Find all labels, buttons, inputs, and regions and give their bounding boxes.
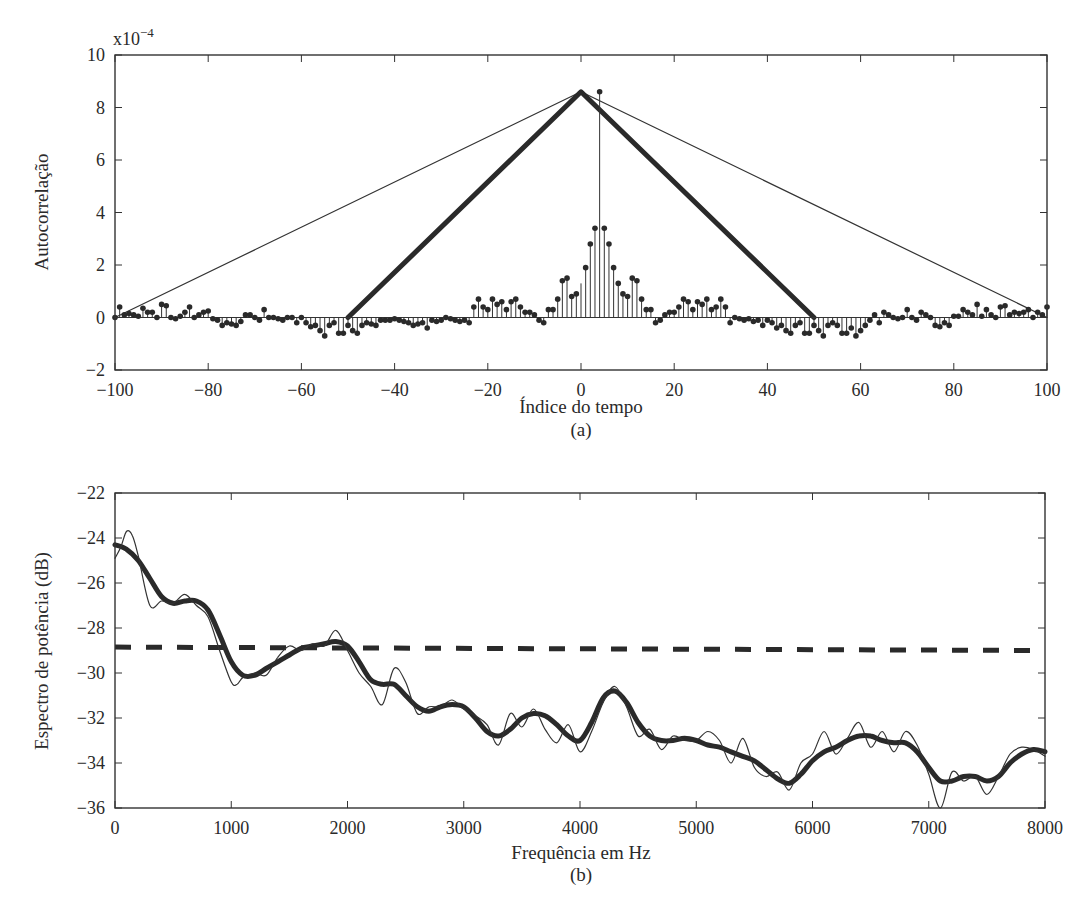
stem-marker [424,325,430,331]
x-tick-label: 80 [945,380,963,400]
stem-marker [485,307,491,313]
stem-marker [471,304,477,310]
stem-marker [816,328,822,334]
stem-marker [345,323,351,329]
y-tick-label: 4 [96,203,105,223]
x-tick-label: 1000 [213,818,249,838]
stem-marker [289,315,295,321]
stem-marker [355,330,361,336]
stem-marker [476,296,482,302]
stem-marker [755,317,761,323]
ticks-b: 010002000300040005000600070008000−36−34−… [77,483,1063,838]
stem-marker [904,307,910,313]
stem-marker [704,296,710,302]
panel-a-autocorrelation: x10−4 −100−80−60−40−20020406080100−20246… [31,25,1061,441]
stem-marker [583,265,589,271]
stem-marker [779,323,785,329]
caption-a: (a) [570,419,591,441]
stem-marker [1002,303,1008,309]
stem-marker [946,323,952,329]
stem-marker [727,320,733,326]
stem-marker [257,317,263,323]
y-tick-label: −28 [77,618,105,638]
y-tick-label: −30 [77,663,105,683]
figure: x10−4 −100−80−60−40−20020406080100−20246… [0,0,1092,922]
x-axis-label-a: Índice do tempo [519,396,642,417]
stem-marker [970,312,976,318]
x-tick-label: 2000 [330,818,366,838]
stem-marker [317,328,323,334]
stem-marker [238,319,244,325]
y-tick-label: 2 [96,255,105,275]
stem-marker [303,320,309,326]
stem-marker [261,307,267,313]
stem-marker [555,296,561,302]
stem-marker [760,323,766,329]
stem-marker [615,281,621,287]
stem-marker [215,317,221,323]
stem-marker [490,296,496,302]
stem-marker [937,324,943,330]
y-tick-label: −26 [77,573,105,593]
stem-marker [564,275,570,281]
stem-marker [844,330,850,336]
x-tick-label: 4000 [562,818,598,838]
stem-marker [550,307,556,313]
y-tick-label: −36 [77,798,105,818]
x-tick-label: 6000 [795,818,831,838]
y-tick-label: −32 [77,708,105,728]
stem-marker [187,304,193,310]
x-tick-label: 100 [1034,380,1061,400]
x-tick-label: 3000 [446,818,482,838]
stem-marker [294,320,300,326]
stem-marker [532,312,538,318]
y-tick-label: 6 [96,150,105,170]
stem-marker [872,312,878,318]
stem-marker [205,308,211,314]
stem-marker [602,225,608,231]
stem-marker [956,313,962,319]
stem-marker [149,309,155,315]
stem-marker [671,309,677,315]
stem-marker [900,315,906,321]
stem-marker [1030,315,1036,321]
x-tick-label: 5000 [678,818,714,838]
stem-marker [984,307,990,313]
stem-marker [769,320,775,326]
stem-marker [588,241,594,247]
y-axis-label-b: Espectro de potência (dB) [31,552,53,750]
stem-marker [541,320,547,326]
y-tick-label: −34 [77,753,105,773]
stem-marker [867,317,873,323]
stem-marker [807,330,813,336]
stem-marker [331,320,337,326]
dashed-line-series [115,647,1045,650]
stem-marker [811,323,817,329]
stem-marker [233,323,239,329]
panel-b-power-spectrum: 010002000300040005000600070008000−36−34−… [31,483,1063,886]
stem-marker [513,296,519,302]
stem-marker [1040,312,1046,318]
stem-marker [341,330,347,336]
stem-marker [177,313,183,319]
axes-frame-a [115,55,1047,370]
stem-marker [713,304,719,310]
stem-marker [634,278,640,284]
thin-line-series [115,531,1045,808]
x-tick-label: −20 [474,380,502,400]
stem-marker [373,323,379,329]
stem-marker [876,320,882,326]
x-tick-label: 0 [111,818,120,838]
stem-marker [313,323,319,329]
x-tick-label: −100 [96,380,133,400]
stem-marker [574,291,580,297]
y-multiplier-label: x10−4 [113,25,154,49]
stem-marker [821,333,827,339]
stem-marker [163,303,169,309]
stem-marker [676,304,682,310]
x-tick-label: −40 [381,380,409,400]
thick-line-series [115,545,1045,784]
x-tick-label: 40 [758,380,776,400]
stem-marker [690,307,696,313]
stem-marker [518,304,524,310]
